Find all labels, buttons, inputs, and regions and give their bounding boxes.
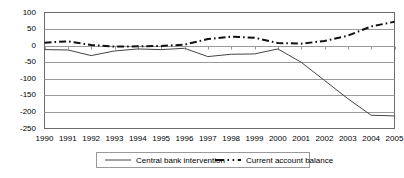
y-axis-tick-label: -200 — [2, 107, 36, 116]
legend-item-current-account-balance: Current account balance — [215, 153, 333, 167]
legend-swatch-solid-icon — [105, 155, 131, 165]
chart-container: 100500-50-100-150-200-250 19901991199219… — [0, 0, 404, 178]
chart-legend: Central bank intervention Current accoun… — [96, 152, 310, 168]
x-axis-tick-label: 2004 — [359, 134, 383, 143]
y-axis-tick-label: 100 — [2, 8, 36, 17]
x-axis-tick-label: 1998 — [219, 134, 243, 143]
x-axis-tick-label: 2001 — [289, 134, 313, 143]
x-axis-tick-label: 1993 — [103, 134, 127, 143]
legend-label-central-bank-intervention: Central bank intervention — [136, 156, 225, 165]
x-axis-tick-label: 1990 — [33, 134, 57, 143]
x-axis-tick-label: 1995 — [149, 134, 173, 143]
y-axis-tick-label: -100 — [2, 74, 36, 83]
x-axis-tick-label: 1992 — [79, 134, 103, 143]
x-axis-tick-label: 2000 — [266, 134, 290, 143]
x-axis-tick-label: 1991 — [56, 134, 80, 143]
x-axis-tick-label: 1994 — [126, 134, 150, 143]
x-axis-tick-label: 1996 — [173, 134, 197, 143]
x-axis-tick-label: 2002 — [313, 134, 337, 143]
x-axis-tick-label: 2005 — [383, 134, 404, 143]
y-axis-tick-label: 50 — [2, 24, 36, 33]
y-axis-tick-label: -50 — [2, 57, 36, 66]
x-axis-tick-label: 1997 — [196, 134, 220, 143]
y-axis-tick-label: -250 — [2, 124, 36, 133]
legend-swatch-dashdot-icon — [215, 155, 241, 165]
x-axis-tick-label: 1999 — [243, 134, 267, 143]
y-axis-tick-label: -150 — [2, 90, 36, 99]
x-axis-tick-label: 2003 — [336, 134, 360, 143]
legend-item-central-bank-intervention: Central bank intervention — [105, 153, 225, 167]
y-axis-tick-label: 0 — [2, 41, 36, 50]
legend-label-current-account-balance: Current account balance — [246, 156, 333, 165]
